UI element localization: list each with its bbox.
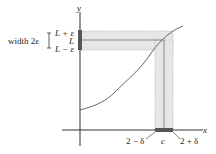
lower-epsilon-label: L − ε bbox=[54, 44, 74, 54]
y-axis-label: y bbox=[76, 3, 81, 13]
left-delta-leader bbox=[146, 132, 155, 139]
right-delta-leader bbox=[173, 132, 180, 139]
limit-definition-diagram: y x width 2ε L + ε L L − ε 2 − δ c 2 + δ bbox=[0, 0, 216, 154]
right-delta-label: 2 + δ bbox=[180, 136, 198, 146]
width-label: width 2ε bbox=[8, 36, 39, 46]
epsilon-interval-bar bbox=[78, 30, 82, 50]
c-label: c bbox=[161, 136, 165, 146]
left-delta-label: 2 − δ bbox=[126, 136, 144, 146]
x-axis-label: x bbox=[202, 125, 207, 135]
delta-interval-bar bbox=[155, 128, 173, 132]
